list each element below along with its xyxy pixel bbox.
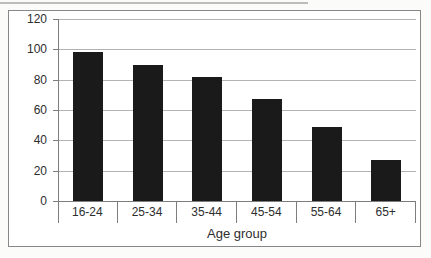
bar-25-34: [133, 65, 163, 202]
chart-frame: Age group 02040608010012016-2425-3435-44…: [8, 10, 421, 247]
gridline-60: [58, 110, 416, 111]
gridline-40: [58, 140, 416, 141]
gridline-100: [58, 49, 416, 50]
bar-55-64: [312, 127, 342, 201]
gridline-20: [58, 171, 416, 172]
bar-45-54: [252, 99, 282, 201]
x-category-65+: 65+: [356, 201, 416, 223]
bar-65+: [371, 160, 401, 201]
x-category-55-64: 55-64: [297, 201, 357, 223]
y-axis-line: [58, 19, 59, 223]
gridline-80: [58, 80, 416, 81]
y-tick-label-60: 60: [13, 103, 47, 117]
scanned-bar-chart-page: { "chart_data": { "type": "bar", "title"…: [0, 0, 431, 258]
scan-edge-artifact: [0, 2, 308, 4]
y-tick-label-20: 20: [13, 164, 47, 178]
bar-16-24: [73, 52, 103, 201]
x-axis-title: Age group: [58, 225, 416, 243]
x-axis-line: [58, 201, 416, 202]
y-tick-label-0: 0: [13, 194, 47, 208]
y-tick-label-80: 80: [13, 73, 47, 87]
y-tick-label-100: 100: [13, 42, 47, 56]
bar-35-44: [192, 77, 222, 201]
y-tick-label-120: 120: [13, 12, 47, 26]
x-category-16-24: 16-24: [58, 201, 118, 223]
x-category-35-44: 35-44: [177, 201, 237, 223]
x-category-45-54: 45-54: [237, 201, 297, 223]
y-tick-label-40: 40: [13, 133, 47, 147]
x-category-25-34: 25-34: [118, 201, 178, 223]
gridline-120: [58, 19, 416, 20]
